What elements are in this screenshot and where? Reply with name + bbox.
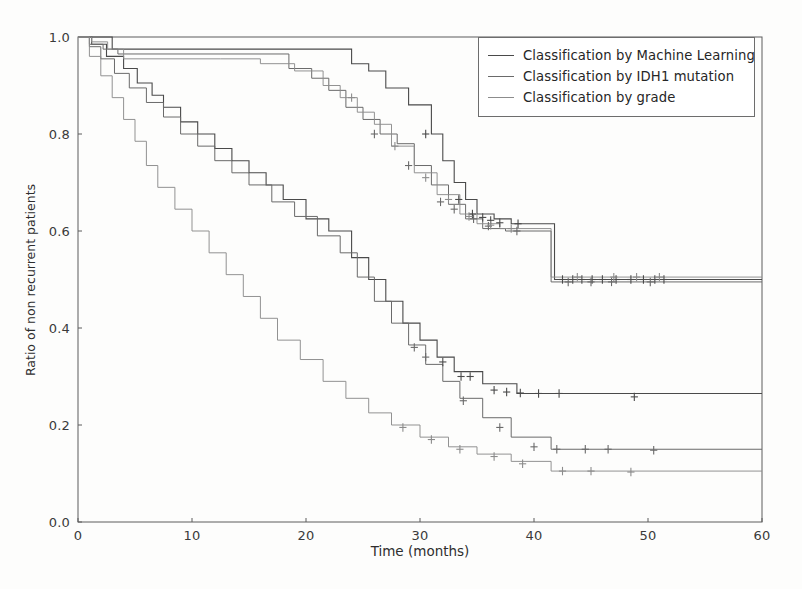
- censoring-mark: [496, 423, 503, 431]
- x-tick-label: 50: [640, 528, 657, 543]
- censoring-mark: [503, 388, 510, 396]
- censoring-mark: [457, 372, 464, 380]
- legend-item: Classification by grade: [488, 87, 745, 108]
- censoring-mark: [348, 93, 355, 101]
- censoring-mark: [439, 358, 446, 366]
- censoring-mark: [587, 467, 594, 475]
- censoring-mark: [599, 275, 606, 283]
- censoring-mark: [640, 275, 647, 283]
- x-tick-label: 40: [526, 528, 543, 543]
- censoring-mark: [491, 452, 498, 460]
- censoring-mark: [491, 386, 498, 394]
- censoring-mark: [627, 468, 634, 476]
- censoring-mark: [405, 161, 412, 169]
- y-tick-label: 1.0: [40, 30, 70, 45]
- censoring-mark: [460, 397, 467, 405]
- censoring-mark: [455, 195, 462, 203]
- y-tick-label: 0.8: [40, 127, 70, 142]
- legend-label-machine-learning: Classification by Machine Learning: [523, 48, 755, 63]
- y-tick-label: 0.2: [40, 418, 70, 433]
- legend-item: Classification by IDH1 mutation: [488, 66, 745, 87]
- censoring-mark: [422, 353, 429, 361]
- x-tick-label: 0: [74, 528, 82, 543]
- censoring-mark: [530, 443, 537, 451]
- legend-line-swatch-idh1-mutation: [488, 76, 514, 77]
- legend-label-grade: Classification by grade: [523, 90, 675, 105]
- x-tick-label: 30: [412, 528, 429, 543]
- censoring-mark: [517, 389, 524, 397]
- censoring-mark: [553, 445, 560, 453]
- censoring-mark: [514, 220, 521, 228]
- censoring-mark: [519, 460, 526, 468]
- censoring-mark: [559, 467, 566, 475]
- x-tick-label: 20: [298, 528, 315, 543]
- censoring-mark: [467, 372, 474, 380]
- legend-line-swatch-machine-learning: [488, 55, 514, 56]
- censoring-mark: [555, 389, 562, 397]
- censoring-mark: [650, 446, 657, 454]
- censoring-mark: [605, 445, 612, 453]
- censoring-marks: [348, 93, 668, 476]
- legend-line-swatch-grade: [488, 97, 514, 98]
- legend-item: Classification by Machine Learning: [488, 45, 745, 66]
- x-axis-label: Time (months): [371, 543, 470, 559]
- x-tick-label: 60: [754, 528, 771, 543]
- censoring-mark: [496, 219, 503, 227]
- legend-box: Classification by Machine Learning Class…: [478, 37, 755, 117]
- censoring-mark: [422, 173, 429, 181]
- censoring-mark: [437, 198, 444, 206]
- censoring-mark: [445, 195, 452, 203]
- censoring-mark: [456, 445, 463, 453]
- figure-container: 01020304050600.00.20.40.60.81.0 Time (mo…: [0, 0, 802, 589]
- censoring-mark: [535, 389, 542, 397]
- y-axis-label: Ratio of non recurrent patients: [23, 184, 38, 376]
- y-tick-label: 0.6: [40, 224, 70, 239]
- y-tick-label: 0.4: [40, 321, 70, 336]
- censoring-mark: [428, 435, 435, 443]
- censoring-mark: [399, 423, 406, 431]
- censoring-mark: [451, 205, 458, 213]
- censoring-mark: [582, 445, 589, 453]
- y-tick-label: 0.0: [40, 515, 70, 530]
- censoring-mark: [422, 130, 429, 138]
- x-tick-label: 10: [184, 528, 201, 543]
- censoring-mark: [371, 130, 378, 138]
- censoring-mark: [411, 343, 418, 351]
- legend-label-idh1-mutation: Classification by IDH1 mutation: [523, 69, 734, 84]
